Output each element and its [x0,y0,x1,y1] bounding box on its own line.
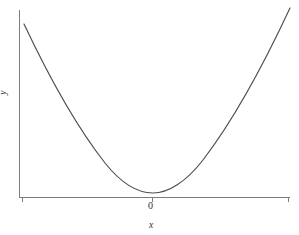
x-axis-label: x [149,221,153,231]
figure-canvas: 0 x y [0,0,299,235]
origin-tick-label: 0 [148,201,153,211]
y-axis-label: y [0,91,9,95]
parabola-curve [24,8,290,193]
